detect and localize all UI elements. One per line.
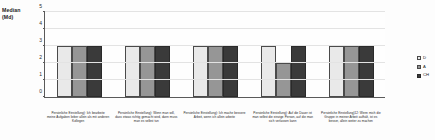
category-axis-labels: Persönliche Einstellung): Ich bearbeite … [44,111,385,123]
legend-swatch-icon [417,74,421,78]
bar-ch-1 [87,46,102,97]
y-axis-tick [43,28,46,29]
legend-swatch-icon [417,56,421,60]
legend-item-a[interactable]: A [417,65,429,69]
bar-ch-4 [291,46,306,97]
legend-label: CH [423,73,429,77]
gridline [45,11,385,12]
gridline [45,28,385,29]
gridline [45,79,385,80]
y-axis-tick [43,79,46,80]
y-axis-tick-label: 4 [39,21,42,26]
y-axis-tick-label: 5 [39,4,42,9]
y-axis-tick-label: 0 [39,89,42,94]
gridline [45,62,385,63]
category-label-1: Persönliche Einstellung): Ich bearbeite … [46,111,111,123]
bar-d-2 [125,46,140,97]
legend-item-d[interactable]: D [417,56,429,60]
bar-groups [45,12,385,97]
bar-a-5 [344,46,359,97]
category-label-4: Persönliche Einstellung): Auf die Dauer … [250,111,315,123]
bar-group [115,12,180,97]
plot-area: 012345 [44,12,385,98]
bar-d-4 [261,46,276,97]
gridline [45,45,385,46]
bar-ch-2 [155,46,170,97]
bar-group [183,12,248,97]
y-axis-tick-label: 3 [39,38,42,43]
bar-group [47,12,112,97]
bar-a-1 [72,46,87,97]
y-axis-tick [43,11,46,12]
bar-group [251,12,316,97]
y-axis-tick [43,45,46,46]
chart-legend: DACH [417,56,429,78]
legend-label: D [423,56,426,60]
bar-a-2 [140,46,155,97]
bar-group [319,12,384,97]
legend-label: A [423,65,426,69]
bar-d-3 [193,46,208,97]
bar-a-4 [276,63,291,97]
y-axis-tick-label: 1 [39,72,42,77]
y-axis-tick-label: 2 [39,55,42,60]
category-label-2: Persönliche Einstellung): Wenn man will,… [114,111,179,123]
plot-wrapper: 012345 [32,12,385,110]
y-axis-tick [43,62,46,63]
bar-ch-3 [223,46,238,97]
category-label-5: Persönliche Einstellung)12: Wenn mich di… [318,111,383,123]
bar-ch-5 [359,46,374,97]
legend-item-ch[interactable]: CH [417,73,429,77]
bar-d-1 [57,46,72,97]
legend-swatch-icon [417,65,421,69]
category-label-3: Persönliche Einstellung): Ich mache bess… [182,111,247,123]
bar-a-3 [208,46,223,97]
bar-d-5 [329,46,344,97]
median-bar-chart: Median (Md) 012345 Persönliche Einstellu… [0,0,435,140]
y-axis-tick [43,96,46,97]
